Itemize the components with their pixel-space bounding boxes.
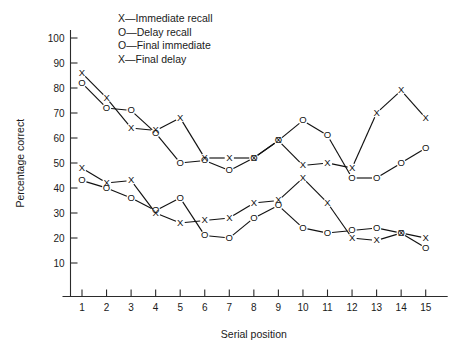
y-tick-label: 100 xyxy=(48,33,65,44)
series-segment xyxy=(357,238,372,240)
data-point: O xyxy=(422,242,429,253)
data-point: O xyxy=(201,154,208,165)
y-tick-label: 80 xyxy=(53,83,65,94)
series-segment xyxy=(233,160,249,168)
line-chart: 1020304050607080901001234567891011121314… xyxy=(0,0,467,358)
series-segment xyxy=(282,181,300,197)
data-point: X xyxy=(423,112,430,123)
legend-item: O—Final immediate xyxy=(118,39,211,51)
series-segment xyxy=(136,128,151,130)
data-point: O xyxy=(250,152,257,163)
series-segment xyxy=(160,120,176,128)
y-tick-label: 60 xyxy=(53,133,65,144)
x-tick-label: 12 xyxy=(346,302,358,313)
series-segment xyxy=(404,94,422,115)
data-point: O xyxy=(348,172,355,183)
series-segment xyxy=(86,182,102,187)
data-point: O xyxy=(226,232,233,243)
data-point: X xyxy=(177,112,184,123)
axes xyxy=(63,30,448,297)
data-point: X xyxy=(128,122,135,133)
series-segment xyxy=(209,162,225,169)
series-segment xyxy=(85,86,103,104)
data-point: X xyxy=(324,157,331,168)
x-tick-label: 1 xyxy=(79,302,85,313)
series-segment xyxy=(183,122,203,154)
y-tick-label: 50 xyxy=(53,158,65,169)
y-tick-label: 40 xyxy=(53,183,65,194)
y-tick-label: 70 xyxy=(53,108,65,119)
data-point: O xyxy=(103,102,110,113)
data-point: O xyxy=(299,114,306,125)
series-segment xyxy=(209,218,224,220)
data-point: X xyxy=(349,232,356,243)
data-point: X xyxy=(324,197,331,208)
x-tick-label: 8 xyxy=(251,302,257,313)
y-tick-label: 10 xyxy=(53,258,65,269)
series-segment xyxy=(330,139,350,174)
series-segment xyxy=(381,234,397,239)
series-segment xyxy=(86,170,103,180)
series-segment xyxy=(85,76,103,94)
series-segment xyxy=(183,202,203,232)
series-segment xyxy=(380,94,398,110)
series-segment xyxy=(381,229,397,232)
series-segment xyxy=(308,163,323,165)
data-point: X xyxy=(128,174,135,185)
data-point: O xyxy=(324,129,331,140)
series-segment xyxy=(306,181,324,199)
x-tick-label: 11 xyxy=(322,302,333,313)
x-tick-label: 3 xyxy=(128,302,134,313)
y-tick-label: 20 xyxy=(53,233,65,244)
series-segment xyxy=(159,137,178,160)
y-tick-label: 90 xyxy=(53,58,65,69)
series-segment xyxy=(307,123,324,133)
series-segment xyxy=(109,102,128,125)
data-point: O xyxy=(201,229,208,240)
data-point: X xyxy=(300,172,307,183)
data-point: O xyxy=(177,157,184,168)
data-point: O xyxy=(275,134,282,145)
data-point: O xyxy=(152,127,159,138)
data-point: X xyxy=(202,214,209,225)
data-point: O xyxy=(299,222,306,233)
series-segment xyxy=(307,229,323,232)
y-tick-label: 30 xyxy=(53,208,65,219)
data-point: X xyxy=(226,152,233,163)
data-point: X xyxy=(398,84,405,95)
chart-container: 1020304050607080901001234567891011121314… xyxy=(0,0,467,358)
series-segment xyxy=(134,184,153,209)
series-segment xyxy=(354,117,375,164)
data-point: X xyxy=(398,227,405,238)
x-tick-label: 9 xyxy=(276,302,282,313)
x-axis-title: Serial position xyxy=(221,328,287,340)
x-tick-label: 13 xyxy=(371,302,383,313)
series-segment xyxy=(282,209,300,225)
x-tick-label: 10 xyxy=(297,302,309,313)
data-point: X xyxy=(373,234,380,245)
data-point: O xyxy=(373,222,380,233)
series-segment xyxy=(134,114,152,130)
series-segment xyxy=(160,215,176,222)
series-segment xyxy=(185,161,200,163)
series-segment xyxy=(258,143,275,155)
data-point: X xyxy=(251,197,258,208)
x-tick-label: 5 xyxy=(177,302,183,313)
data-point: X xyxy=(177,217,184,228)
series-segment xyxy=(330,207,349,234)
x-tick-label: 14 xyxy=(396,302,408,313)
series-segment xyxy=(357,228,372,230)
series-segment xyxy=(185,221,200,223)
series-segment xyxy=(233,205,250,215)
x-tick-label: 2 xyxy=(104,302,110,313)
data-point: X xyxy=(373,107,380,118)
x-axis-ticks: 123456789101112131415 xyxy=(79,290,431,313)
y-axis-title: Percentage correct xyxy=(14,119,26,208)
data-point: O xyxy=(127,104,134,115)
legend-item: O—Delay recall xyxy=(118,26,192,38)
series-segment xyxy=(111,181,126,183)
data-point: O xyxy=(422,142,429,153)
series-segment xyxy=(258,201,273,203)
series-segment xyxy=(111,190,127,197)
x-tick-label: 15 xyxy=(420,302,432,313)
